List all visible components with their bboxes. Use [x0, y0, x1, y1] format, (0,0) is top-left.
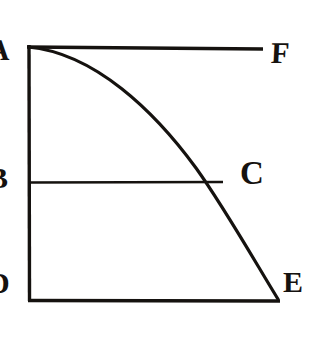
vertex-label-B-text: B [0, 163, 8, 193]
vertex-label-C: C [240, 157, 264, 190]
figure-canvas: A F B C D E [0, 0, 335, 344]
segment-BC-chord [30, 182, 223, 183]
vertex-label-F: F [270, 38, 290, 68]
segment-DE-bottom-edge [28, 301, 280, 302]
vertex-label-D: D [0, 268, 18, 308]
vertex-label-B: B [0, 163, 16, 203]
vertex-label-D-text: D [0, 268, 10, 298]
segment-AF-top-edge [27, 47, 263, 49]
vertex-label-A-text: A [0, 35, 10, 65]
vertex-label-E: E [283, 267, 303, 297]
vertex-label-A: A [0, 35, 16, 75]
segment-AD-left-edge [29, 45, 30, 301]
